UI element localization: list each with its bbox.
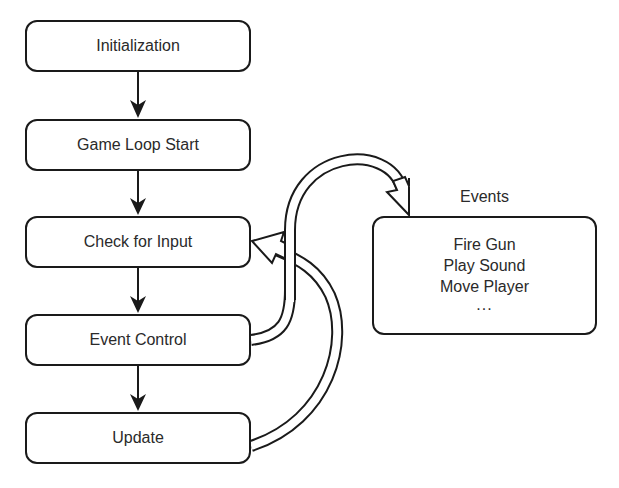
node-initialization: Initialization — [25, 20, 251, 72]
event-item-play-sound: Play Sound — [444, 255, 526, 276]
node-update-label: Update — [112, 429, 164, 447]
arrow-input-to-event — [130, 268, 146, 313]
node-game-loop-start-label: Game Loop Start — [77, 136, 199, 154]
node-update: Update — [25, 412, 251, 464]
events-panel: Fire Gun Play Sound Move Player ... — [372, 216, 597, 335]
arrow-init-to-loop — [130, 72, 146, 118]
event-item-ellipsis: ... — [476, 297, 492, 313]
events-panel-title: Events — [372, 188, 597, 206]
node-check-for-input-label: Check for Input — [84, 233, 193, 251]
node-event-control-label: Event Control — [90, 331, 187, 349]
node-game-loop-start: Game Loop Start — [25, 119, 251, 171]
node-check-for-input: Check for Input — [25, 216, 251, 268]
node-event-control: Event Control — [25, 314, 251, 366]
event-item-move-player: Move Player — [440, 276, 529, 297]
arrow-loop-to-input — [130, 171, 146, 215]
node-initialization-label: Initialization — [96, 37, 180, 55]
arrow-event-to-update — [130, 366, 146, 411]
event-item-fire-gun: Fire Gun — [453, 234, 515, 255]
